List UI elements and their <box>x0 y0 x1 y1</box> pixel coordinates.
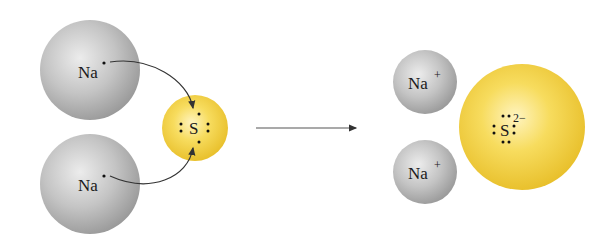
sulfide-charge: 2− <box>513 111 526 125</box>
sodium-symbol: Na <box>78 63 98 82</box>
ionic-bond-diagram: Na Na S Na + Na + S 2− <box>0 0 592 240</box>
sodium-ion-bottom: Na + <box>393 140 457 204</box>
valence-electron-dot <box>102 174 105 177</box>
sodium-atom-top: Na <box>40 20 140 120</box>
sodium-ion-symbol: Na <box>408 164 428 183</box>
sodium-ion-charge: + <box>434 68 441 82</box>
valence-electron-dot <box>102 61 105 64</box>
sulfur-atom: S <box>162 95 228 161</box>
sodium-ion-top: Na + <box>393 50 457 114</box>
sulfide-ion: S 2− <box>459 64 585 190</box>
sulfur-symbol: S <box>189 119 198 138</box>
sodium-atom-bottom: Na <box>40 134 140 234</box>
sodium-ion-symbol: Na <box>408 74 428 93</box>
sodium-ion-charge: + <box>434 158 441 172</box>
sulfide-symbol: S <box>500 121 509 140</box>
sodium-symbol: Na <box>78 176 98 195</box>
